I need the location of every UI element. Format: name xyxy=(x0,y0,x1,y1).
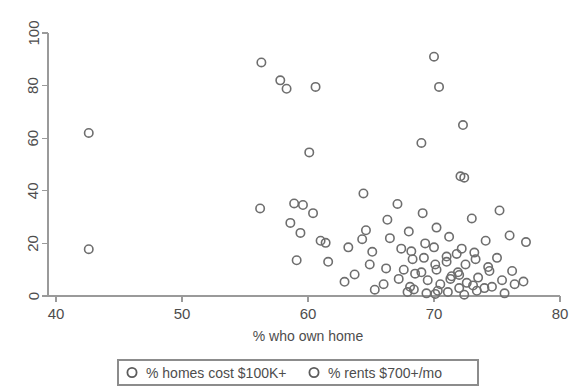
data-point xyxy=(459,121,467,129)
x-tick-label: 80 xyxy=(552,305,569,322)
data-point xyxy=(505,231,513,239)
data-point xyxy=(417,139,425,147)
data-point xyxy=(299,201,307,209)
data-point xyxy=(321,239,329,247)
data-point xyxy=(324,258,332,266)
data-point xyxy=(292,256,300,264)
y-tick-label: 20 xyxy=(25,235,42,252)
data-point xyxy=(445,233,453,241)
axes-layer: 4050607080020406080100% who own home xyxy=(25,20,569,344)
data-point xyxy=(316,237,324,245)
data-point xyxy=(85,245,93,253)
scatter-chart: 4050607080020406080100% who own home % h… xyxy=(0,0,585,389)
data-point xyxy=(311,83,319,91)
data-point xyxy=(421,239,429,247)
data-point xyxy=(432,266,440,274)
data-point xyxy=(474,273,482,281)
data-point xyxy=(460,290,468,298)
y-tick-label: 80 xyxy=(25,77,42,94)
data-point xyxy=(257,58,265,66)
data-point xyxy=(368,248,376,256)
data-point xyxy=(407,247,415,255)
data-point xyxy=(432,223,440,231)
data-point xyxy=(366,260,374,268)
data-point xyxy=(359,189,367,197)
y-tick-label: 0 xyxy=(25,292,42,300)
plot-canvas: 4050607080020406080100% who own home % h… xyxy=(0,0,585,389)
data-point xyxy=(420,254,428,262)
data-point xyxy=(435,83,443,91)
x-tick-label: 70 xyxy=(426,305,443,322)
data-point xyxy=(481,237,489,245)
series-1 xyxy=(276,76,519,299)
y-tick-label: 40 xyxy=(25,182,42,199)
data-point xyxy=(362,226,370,234)
data-point xyxy=(305,148,313,156)
data-point xyxy=(408,255,416,263)
data-point xyxy=(493,254,501,262)
data-point xyxy=(510,280,518,288)
data-point xyxy=(495,206,503,214)
data-point xyxy=(379,280,387,288)
data-point xyxy=(461,260,469,268)
data-point xyxy=(85,129,93,137)
data-point xyxy=(522,238,530,246)
legend-label: % rents $700+/mo xyxy=(328,365,442,381)
y-tick-label: 100 xyxy=(25,20,42,45)
data-point xyxy=(309,209,317,217)
data-point xyxy=(350,270,358,278)
x-tick-label: 50 xyxy=(174,305,191,322)
data-point xyxy=(400,266,408,274)
data-point xyxy=(393,200,401,208)
data-point xyxy=(286,219,294,227)
data-point xyxy=(344,243,352,251)
data-point xyxy=(296,229,304,237)
data-point xyxy=(386,234,394,242)
data-point xyxy=(290,199,298,207)
data-point xyxy=(519,277,527,285)
data-point xyxy=(452,250,460,258)
data-points-layer xyxy=(85,52,531,298)
data-point xyxy=(358,235,366,243)
x-tick-label: 60 xyxy=(300,305,317,322)
data-point xyxy=(458,244,466,252)
data-point xyxy=(383,216,391,224)
data-point xyxy=(424,276,432,284)
legend-label: % homes cost $100K+ xyxy=(146,365,286,381)
data-point xyxy=(468,214,476,222)
data-point xyxy=(276,76,284,84)
x-tick-label: 40 xyxy=(48,305,65,322)
chart-legend: % homes cost $100K+% rents $700+/mo xyxy=(118,360,478,385)
data-point xyxy=(430,52,438,60)
data-point xyxy=(282,85,290,93)
series-0 xyxy=(85,52,531,294)
data-point xyxy=(498,276,506,284)
data-point xyxy=(405,227,413,235)
data-point xyxy=(442,258,450,266)
y-tick-label: 60 xyxy=(25,130,42,147)
data-point xyxy=(444,288,452,296)
data-point xyxy=(430,243,438,251)
data-point xyxy=(397,244,405,252)
data-point xyxy=(371,285,379,293)
data-point xyxy=(508,267,516,275)
data-point xyxy=(418,209,426,217)
data-point xyxy=(256,204,264,212)
data-point xyxy=(340,278,348,286)
data-point xyxy=(395,275,403,283)
data-point xyxy=(382,264,390,272)
x-axis-title: % who own home xyxy=(253,328,364,344)
